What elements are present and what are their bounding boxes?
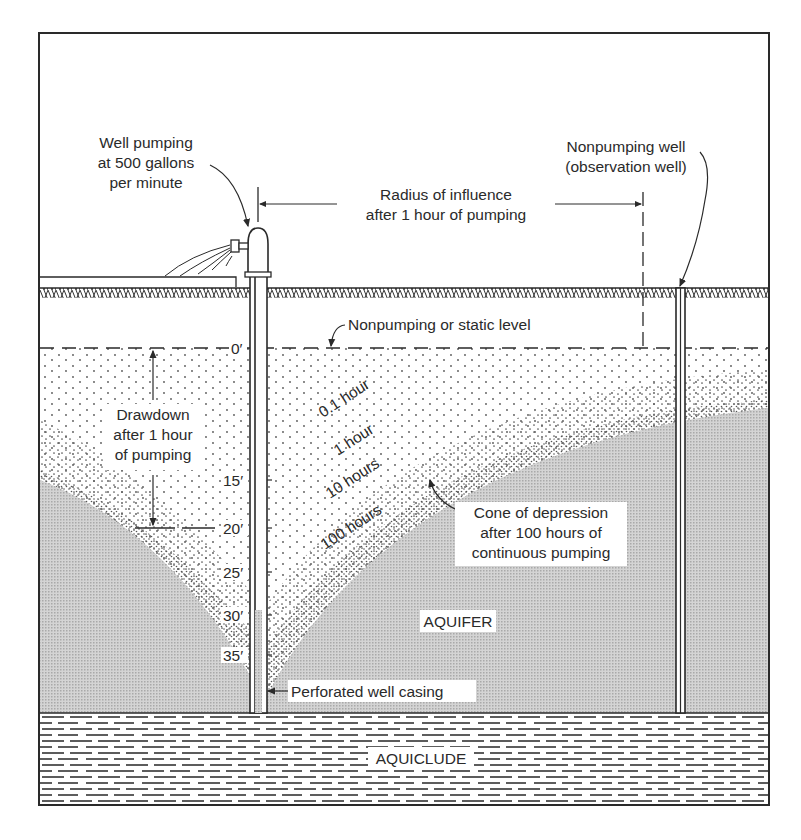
perforated-casing-label: Perforated well casing — [288, 680, 476, 702]
svg-text:Well pumping: Well pumping — [99, 134, 193, 151]
cone-of-depression-label: Cone of depression after 100 hours of co… — [455, 502, 627, 566]
svg-text:Nonpumping well: Nonpumping well — [567, 138, 686, 155]
svg-text:20′: 20′ — [223, 520, 243, 537]
svg-text:Radius of influence: Radius of influence — [380, 186, 512, 203]
svg-text:after 1 hour: after 1 hour — [113, 426, 192, 443]
svg-text:Cone of depression: Cone of depression — [474, 504, 608, 521]
svg-text:continuous pumping: continuous pumping — [472, 544, 611, 561]
svg-text:Perforated well casing: Perforated well casing — [291, 683, 444, 700]
observation-well — [676, 288, 685, 713]
pumping-well-label: Well pumping at 500 gallons per minute — [98, 134, 195, 191]
svg-text:AQUIFER: AQUIFER — [424, 613, 493, 630]
svg-text:15′: 15′ — [223, 472, 243, 489]
aquiclude-label: AQUICLUDE — [368, 747, 474, 769]
ground-surface — [40, 288, 768, 298]
svg-text:after 1 hour of pumping: after 1 hour of pumping — [366, 206, 526, 223]
svg-text:0′: 0′ — [231, 340, 243, 357]
svg-text:Drawdown: Drawdown — [116, 406, 189, 423]
svg-text:25′: 25′ — [223, 564, 243, 581]
drawdown-label: Drawdown after 1 hour of pumping — [104, 404, 204, 470]
static-level-label: Nonpumping or static level — [348, 316, 531, 333]
pump-head — [248, 228, 268, 276]
svg-text:30′: 30′ — [223, 607, 243, 624]
svg-text:at 500 gallons: at 500 gallons — [98, 154, 195, 171]
aquifer-label: AQUIFER — [420, 610, 496, 632]
svg-text:AQUICLUDE: AQUICLUDE — [376, 750, 466, 767]
cone-of-depression-diagram: Well pumping at 500 gallons per minute R… — [0, 0, 801, 840]
svg-text:per minute: per minute — [109, 174, 182, 191]
svg-text:(observation well): (observation well) — [565, 158, 686, 175]
svg-text:after 100 hours of: after 100 hours of — [480, 524, 602, 541]
svg-text:35′: 35′ — [223, 647, 243, 664]
svg-text:of pumping: of pumping — [115, 446, 192, 463]
